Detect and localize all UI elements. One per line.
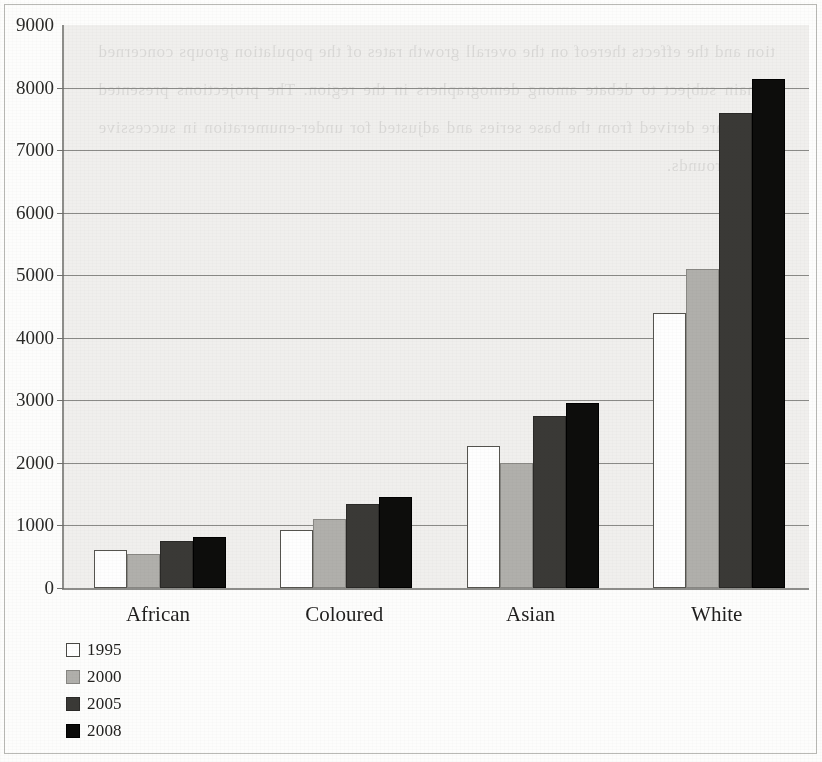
legend-label-1995: 1995 — [87, 640, 122, 660]
bar-african-2000 — [127, 554, 160, 588]
y-axis-tick-label: 9000 — [16, 14, 54, 36]
gridline — [64, 88, 809, 89]
legend-label-2000: 2000 — [87, 667, 122, 687]
bar-african-1995 — [94, 550, 127, 588]
legend-swatch-icon-1995 — [66, 643, 80, 657]
bar-coloured-2008 — [379, 497, 412, 588]
legend-label-2008: 2008 — [87, 721, 122, 741]
bar-coloured-2000 — [313, 519, 346, 588]
bar-asian-2000 — [500, 463, 533, 588]
legend-item-2008: 2008 — [66, 717, 122, 744]
legend-label-2005: 2005 — [87, 694, 122, 714]
y-axis-tick-label: 4000 — [16, 327, 54, 349]
y-axis-tick — [57, 213, 64, 214]
y-axis-tick-label: 1000 — [16, 514, 54, 536]
x-axis-label-african: African — [126, 602, 190, 627]
bar-coloured-1995 — [280, 530, 313, 588]
y-axis-tick-label: 7000 — [16, 139, 54, 161]
legend-item-1995: 1995 — [66, 636, 122, 663]
x-axis-label-asian: Asian — [506, 602, 555, 627]
bar-white-2000 — [686, 269, 719, 588]
y-axis-tick — [57, 463, 64, 464]
y-axis-tick-label: 6000 — [16, 202, 54, 224]
gridline — [64, 150, 809, 151]
legend-item-2005: 2005 — [66, 690, 122, 717]
y-axis-tick — [57, 400, 64, 401]
y-axis-tick — [57, 275, 64, 276]
chart-legend: 1995200020052008 — [66, 636, 122, 744]
y-axis-tick-label: 3000 — [16, 389, 54, 411]
y-axis-tick — [57, 150, 64, 151]
bar-asian-2005 — [533, 416, 566, 588]
bar-asian-1995 — [467, 446, 500, 588]
plot-area: tion and the effects thereof on the over… — [62, 25, 809, 590]
bar-white-1995 — [653, 313, 686, 588]
bar-white-2008 — [752, 79, 785, 588]
y-axis-tick — [57, 88, 64, 89]
bar-african-2005 — [160, 541, 193, 588]
bar-coloured-2005 — [346, 504, 379, 588]
bar-asian-2008 — [566, 403, 599, 588]
y-axis-tick-label: 5000 — [16, 264, 54, 286]
legend-swatch-icon-2008 — [66, 724, 80, 738]
chart-figure: 0100020003000400050006000700080009000 ti… — [0, 0, 822, 762]
y-axis-tick — [57, 338, 64, 339]
legend-swatch-icon-2005 — [66, 697, 80, 711]
bar-african-2008 — [193, 537, 226, 588]
y-axis-tick-label: 2000 — [16, 452, 54, 474]
x-axis-label-white: White — [691, 602, 742, 627]
y-axis-tick — [57, 588, 64, 589]
y-axis-tick — [57, 525, 64, 526]
x-axis-label-coloured: Coloured — [305, 602, 383, 627]
y-axis-tick-label: 0 — [45, 577, 55, 599]
legend-swatch-icon-2000 — [66, 670, 80, 684]
legend-item-2000: 2000 — [66, 663, 122, 690]
gridline — [64, 213, 809, 214]
y-axis-tick-label: 8000 — [16, 77, 54, 99]
bar-white-2005 — [719, 113, 752, 588]
